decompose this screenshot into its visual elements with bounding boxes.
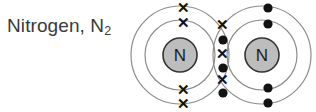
outer-shell-top-dot [263, 3, 272, 12]
inner-shell-top-dot [263, 19, 272, 28]
inner-shell-bottom-dot [263, 83, 272, 92]
right-nitrogen-atom-nucleus-symbol: N [256, 46, 268, 65]
left-nitrogen-atom-nucleus-symbol: N [174, 46, 186, 65]
inner-shell-top-cross: ✕ [177, 14, 190, 31]
nitrogen-molecule-figure: Nitrogen, N2 NN ✕✕✕✕✕✕✕ [0, 0, 316, 112]
shared-dot-3 [218, 88, 227, 97]
shared-cross-3: ✕ [216, 71, 229, 88]
shared-cross-2: ✕ [216, 45, 229, 62]
outer-shell-bottom-cross: ✕ [177, 95, 190, 112]
shared-cross-1: ✕ [216, 16, 229, 33]
bonding-diagram: NN ✕✕✕✕✕✕✕ [0, 0, 316, 112]
shared-dot-1 [218, 35, 227, 44]
outer-shell-bottom-dot [263, 98, 272, 107]
